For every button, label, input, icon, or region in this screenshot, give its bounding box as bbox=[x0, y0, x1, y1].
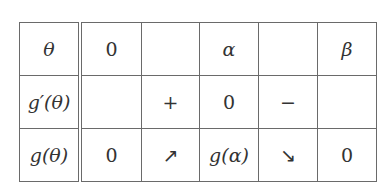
theta-value-beta: β bbox=[318, 23, 377, 76]
function-label: g(θ) bbox=[20, 129, 81, 182]
theta-gap-1 bbox=[142, 23, 200, 76]
theta-row: θ 0 α β bbox=[20, 23, 377, 76]
variation-table: θ 0 α β g′(θ) + 0 − g(θ) 0 ↗ g(α) ↘ 0 bbox=[19, 22, 377, 182]
function-value-end: 0 bbox=[318, 129, 377, 182]
derivative-cell-5 bbox=[318, 76, 377, 129]
decreasing-arrow-icon: ↘ bbox=[259, 129, 318, 182]
increasing-arrow-icon: ↗ bbox=[142, 129, 200, 182]
theta-value-alpha: α bbox=[200, 23, 259, 76]
function-value-max: g(α) bbox=[200, 129, 259, 182]
function-value-start: 0 bbox=[80, 129, 142, 182]
derivative-sign-negative: − bbox=[259, 76, 318, 129]
derivative-label: g′(θ) bbox=[20, 76, 81, 129]
function-row: g(θ) 0 ↗ g(α) ↘ 0 bbox=[20, 129, 377, 182]
derivative-row: g′(θ) + 0 − bbox=[20, 76, 377, 129]
theta-value-0: 0 bbox=[80, 23, 142, 76]
derivative-zero: 0 bbox=[200, 76, 259, 129]
derivative-sign-positive: + bbox=[142, 76, 200, 129]
theta-header: θ bbox=[20, 23, 81, 76]
derivative-cell-1 bbox=[80, 76, 142, 129]
theta-gap-2 bbox=[259, 23, 318, 76]
